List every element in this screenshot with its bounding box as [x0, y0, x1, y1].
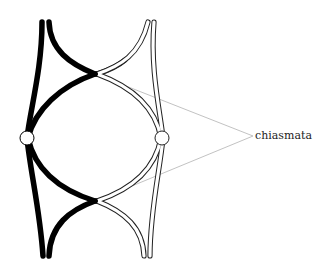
left-homolog [27, 22, 95, 256]
chiasmata-diagram: chiasmata [0, 0, 313, 268]
left-centromere [20, 131, 34, 145]
annotation-leader-lines [98, 75, 253, 200]
chiasmata-label: chiasmata [255, 129, 312, 142]
right-centromere [155, 131, 169, 145]
right-homolog [97, 22, 163, 256]
